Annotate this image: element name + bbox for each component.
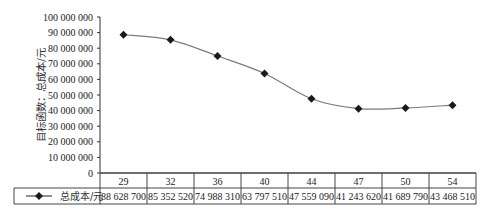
y-axis-ticks: 010 000 00020 000 00030 000 00040 000 00… bbox=[43, 12, 100, 179]
x-category-label: 44 bbox=[307, 176, 317, 187]
y-tick-label: 50 000 000 bbox=[48, 90, 93, 101]
x-category-label: 54 bbox=[448, 176, 458, 187]
x-category-label: 47 bbox=[354, 176, 364, 187]
y-tick-label: 100 000 000 bbox=[43, 12, 93, 23]
y-tick-label: 80 000 000 bbox=[48, 43, 93, 54]
y-tick-label: 10 000 000 bbox=[48, 152, 93, 163]
y-tick-label: 0 bbox=[88, 168, 93, 179]
y-axis-title: 目标函数：总成本/元 bbox=[35, 47, 47, 142]
data-table-value: 43 468 510 bbox=[430, 191, 475, 202]
data-table-value: 41 243 620 bbox=[336, 191, 381, 202]
y-axis-title-text: 目标函数：总成本/元 bbox=[35, 47, 47, 142]
y-tick-label: 60 000 000 bbox=[48, 74, 93, 85]
data-table-value: 63 797 510 bbox=[242, 191, 287, 202]
diamond-marker-icon bbox=[120, 31, 128, 39]
x-category-label: 29 bbox=[119, 176, 129, 187]
y-tick-label: 30 000 000 bbox=[48, 121, 93, 132]
series-markers bbox=[120, 31, 457, 113]
data-table-value: 85 352 520 bbox=[148, 191, 193, 202]
data-table-value: 47 559 090 bbox=[289, 191, 334, 202]
data-table-value: 88 628 700 bbox=[101, 191, 146, 202]
diamond-marker-icon bbox=[261, 69, 269, 77]
y-tick-label: 20 000 000 bbox=[48, 136, 93, 147]
y-tick-label: 70 000 000 bbox=[48, 58, 93, 69]
x-category-label: 36 bbox=[213, 176, 223, 187]
y-tick-label: 90 000 000 bbox=[48, 27, 93, 38]
data-table-value: 41 689 790 bbox=[383, 191, 428, 202]
x-category-label: 32 bbox=[166, 176, 176, 187]
data-table-value: 74 988 310 bbox=[195, 191, 240, 202]
diamond-marker-icon bbox=[402, 104, 410, 112]
x-category-label: 50 bbox=[401, 176, 411, 187]
series-line bbox=[124, 35, 453, 110]
diamond-marker-icon bbox=[308, 95, 316, 103]
legend-diamond-icon bbox=[35, 192, 43, 200]
diamond-marker-icon bbox=[355, 105, 363, 113]
y-tick-label: 40 000 000 bbox=[48, 105, 93, 116]
line-chart: 目标函数：总成本/元 010 000 00020 000 00030 000 0… bbox=[0, 0, 488, 216]
diamond-marker-icon bbox=[449, 101, 457, 109]
diamond-marker-icon bbox=[214, 52, 222, 60]
legend-label: 总成本/元 bbox=[60, 190, 103, 202]
data-table: 293236404447505488 628 70085 352 52074 9… bbox=[14, 173, 476, 204]
x-category-label: 40 bbox=[260, 176, 270, 187]
diamond-marker-icon bbox=[167, 36, 175, 44]
